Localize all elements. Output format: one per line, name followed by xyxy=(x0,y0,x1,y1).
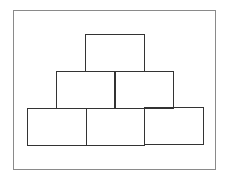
pyramid-block-bottom-right xyxy=(144,107,204,145)
pyramid-block-top xyxy=(85,34,145,72)
pyramid-block-bottom-left xyxy=(27,108,87,146)
pyramid-block-middle-left xyxy=(56,71,116,109)
pyramid-block-middle-right xyxy=(114,71,174,109)
pyramid-block-bottom-center xyxy=(86,108,145,146)
